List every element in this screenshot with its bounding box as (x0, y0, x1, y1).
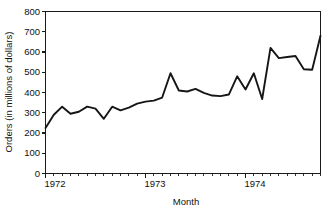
plot-border (46, 12, 321, 174)
x-axis-title: Month (173, 196, 199, 207)
x-axis-tick-labels: 197219731974 (45, 178, 266, 189)
y-tick-label: 700 (24, 26, 40, 37)
y-axis-title: Orders (in millions of dollars) (3, 32, 14, 153)
series-orders-line (46, 36, 321, 128)
y-tick-label: 200 (24, 127, 40, 138)
y-tick-label: 800 (24, 6, 40, 17)
y-tick-label: 300 (24, 107, 40, 118)
x-tick-label: 1974 (245, 178, 266, 189)
y-tick-label: 600 (24, 46, 40, 57)
y-tick-label: 0 (35, 168, 40, 179)
x-tick-label: 1972 (45, 178, 66, 189)
plot-frame (46, 12, 321, 174)
y-tick-label: 100 (24, 147, 40, 158)
chart-figure: 0100200300400500600700800 197219731974 M… (0, 0, 329, 209)
orders-line-chart: 0100200300400500600700800 197219731974 M… (0, 0, 329, 209)
y-tick-label: 400 (24, 87, 40, 98)
x-tick-label: 1973 (145, 178, 166, 189)
y-axis-tick-labels: 0100200300400500600700800 (24, 6, 40, 179)
y-tick-label: 500 (24, 66, 40, 77)
